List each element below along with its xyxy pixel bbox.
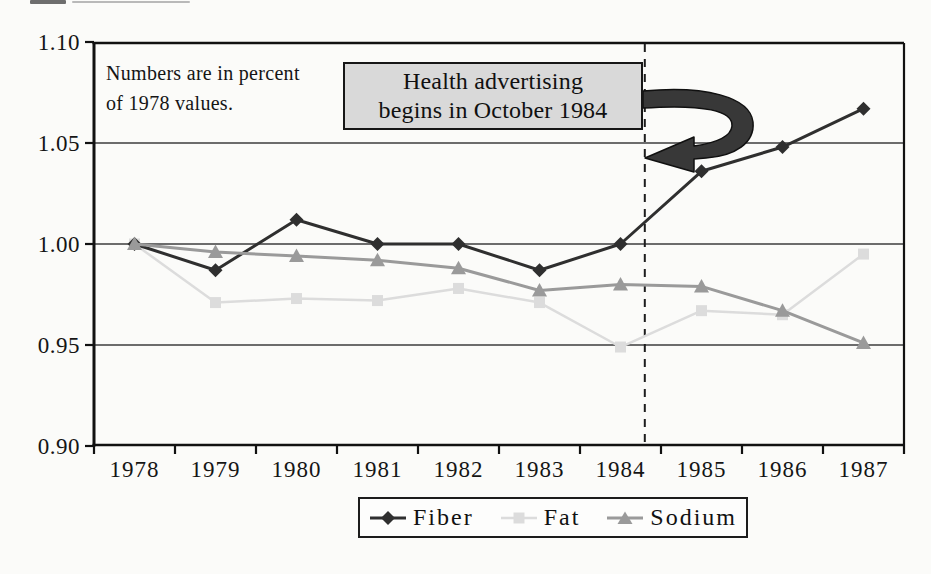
annotation-line2: begins in October 1984 bbox=[378, 96, 607, 125]
fiber-marker bbox=[371, 237, 385, 251]
chart-legend: FiberFatSodium bbox=[358, 497, 748, 538]
legend-item-fat: Fat bbox=[500, 504, 581, 531]
legend-label-sodium: Sodium bbox=[650, 504, 737, 531]
fiber-line bbox=[135, 109, 864, 271]
fat-marker bbox=[615, 342, 626, 353]
fiber-marker bbox=[290, 213, 304, 227]
fat-marker bbox=[291, 293, 302, 304]
fiber-marker bbox=[209, 263, 223, 277]
x-axis-label: 1984 bbox=[596, 457, 646, 482]
chart-figure: 1.101.051.000.950.9019781979198019811982… bbox=[0, 0, 931, 574]
x-axis-label: 1981 bbox=[353, 457, 403, 482]
x-axis-label: 1986 bbox=[758, 457, 808, 482]
x-axis-label: 1987 bbox=[839, 457, 889, 482]
annotation-box: Health advertising begins in October 198… bbox=[343, 62, 643, 130]
fiber-marker bbox=[533, 263, 547, 277]
annotation-line1: Health advertising bbox=[403, 67, 583, 96]
y-axis-label: 1.10 bbox=[38, 30, 80, 55]
y-axis-label: 1.00 bbox=[38, 232, 80, 257]
legend-square-icon bbox=[500, 509, 538, 527]
legend-item-fiber: Fiber bbox=[369, 504, 474, 531]
fat-marker bbox=[858, 249, 869, 260]
chart-note-line2: of 1978 values. bbox=[106, 88, 300, 118]
fat-line bbox=[135, 244, 864, 347]
x-axis-label: 1982 bbox=[434, 457, 484, 482]
fat-marker bbox=[372, 295, 383, 306]
chart-note: Numbers are in percent of 1978 values. bbox=[106, 58, 300, 118]
legend-diamond-icon bbox=[369, 509, 407, 527]
legend-triangle-icon bbox=[606, 509, 644, 527]
fat-marker bbox=[534, 297, 545, 308]
x-axis-label: 1978 bbox=[110, 457, 160, 482]
fiber-marker bbox=[857, 102, 871, 116]
x-axis-label: 1979 bbox=[191, 457, 241, 482]
fat-marker bbox=[696, 305, 707, 316]
y-axis-label: 0.95 bbox=[38, 333, 80, 358]
fat-marker bbox=[210, 297, 221, 308]
sodium-line bbox=[135, 244, 864, 343]
legend-label-fat: Fat bbox=[544, 504, 581, 531]
fiber-marker bbox=[776, 140, 790, 154]
x-axis-label: 1980 bbox=[272, 457, 322, 482]
x-axis-label: 1983 bbox=[515, 457, 565, 482]
x-axis-label: 1985 bbox=[677, 457, 727, 482]
legend-label-fiber: Fiber bbox=[413, 504, 474, 531]
chart-note-line1: Numbers are in percent bbox=[106, 58, 300, 88]
y-axis-label: 1.05 bbox=[38, 131, 80, 156]
fat-marker bbox=[453, 283, 464, 294]
y-axis-label: 0.90 bbox=[38, 434, 80, 459]
fiber-marker bbox=[452, 237, 466, 251]
legend-item-sodium: Sodium bbox=[606, 504, 737, 531]
